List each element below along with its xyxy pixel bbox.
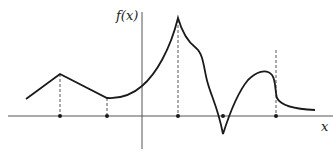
function-graph-figure: f(x) x (0, 0, 333, 154)
y-axis-label: f(x) (115, 8, 138, 23)
x-axis-label: x (321, 119, 329, 134)
point-dot-3 (176, 114, 180, 118)
point-dot-1 (58, 114, 62, 118)
point-dot-2 (105, 114, 109, 118)
point-dot-4 (221, 114, 225, 118)
point-dot-5 (274, 114, 278, 118)
function-curve (26, 18, 315, 134)
dashed-guides (60, 20, 276, 116)
